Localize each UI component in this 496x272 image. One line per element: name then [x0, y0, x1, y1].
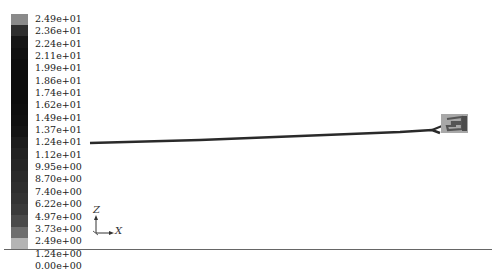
bottom-divider	[4, 249, 492, 250]
legend-label: 0.00e+00	[35, 260, 82, 272]
model-geometry	[90, 114, 468, 143]
model-viewport[interactable]	[0, 0, 496, 250]
axis-triad: Z X	[90, 206, 130, 236]
axis-z-label: Z	[93, 204, 100, 215]
axis-x-label: X	[115, 225, 122, 236]
